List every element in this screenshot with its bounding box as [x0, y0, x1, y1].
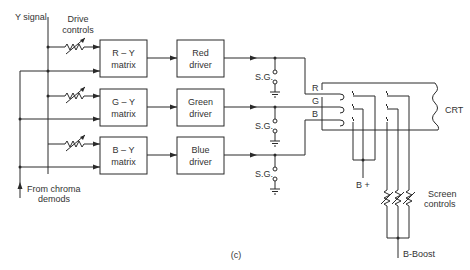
blue-driver-box: [177, 137, 224, 174]
svg-text:matrix: matrix: [111, 157, 136, 167]
svg-text:driver: driver: [189, 60, 212, 70]
crt: CRT R G B B +: [312, 83, 464, 190]
svg-text:matrix: matrix: [111, 109, 136, 119]
spark-gap-label-blue: S.G.: [255, 169, 273, 179]
cathode-b-icon: [340, 120, 344, 126]
channel-red: R – Y matrix Red driver S.G.: [20, 38, 340, 97]
chroma-label-1: From chroma: [27, 184, 81, 194]
crt-label: CRT: [445, 105, 464, 115]
r-y-matrix-label: R – Y: [112, 48, 134, 58]
cathode-label-g: G: [312, 96, 319, 106]
b-boost-label: B-Boost: [403, 249, 436, 259]
chroma-arrow-icon: [18, 182, 23, 189]
svg-text:matrix: matrix: [111, 60, 136, 70]
b-y-matrix-box: [100, 137, 147, 174]
screen-controls: Screen controls B-Boost: [381, 189, 457, 259]
screen-controls-label-2: controls: [424, 199, 456, 209]
red-driver-label: Red: [192, 48, 209, 58]
figure-caption: (c): [231, 250, 242, 260]
cathode-r-icon: [340, 94, 344, 100]
g-y-matrix-label: G – Y: [112, 97, 135, 107]
chroma-label-2: demods: [38, 194, 71, 204]
drive-controls-label-2: controls: [62, 25, 94, 35]
b-y-matrix-label: B – Y: [113, 145, 135, 155]
red-driver-box: [177, 40, 224, 77]
green-driver-box: [177, 89, 224, 126]
cathode-label-b: B: [312, 109, 318, 119]
spark-gap-label-green: S.G.: [255, 121, 273, 131]
crt-drive-circuit-diagram: Y signal Drive controls From chroma demo…: [0, 0, 470, 270]
svg-text:driver: driver: [189, 109, 212, 119]
blue-driver-label: Blue: [191, 145, 209, 155]
channel-blue: B – Y matrix Blue driver S.G.: [19, 120, 341, 194]
y-signal-label: Y signal: [15, 12, 47, 22]
spark-gap-label-red: S.G.: [255, 72, 273, 82]
g-y-matrix-box: [100, 89, 147, 126]
b-plus-label: B +: [356, 180, 370, 190]
screen-controls-label-1: Screen: [428, 189, 457, 199]
cathode-g-icon: [340, 107, 344, 113]
drive-controls-label-1: Drive: [67, 14, 88, 24]
green-driver-label: Green: [188, 97, 213, 107]
cathode-label-r: R: [312, 83, 319, 93]
svg-text:driver: driver: [189, 157, 212, 167]
r-y-matrix-box: [100, 40, 147, 77]
